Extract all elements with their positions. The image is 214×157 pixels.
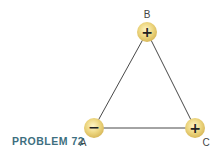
minus-sign-icon: − bbox=[88, 119, 100, 135]
plus-sign-icon: + bbox=[141, 24, 153, 40]
problem-caption: PROBLEM 72 bbox=[12, 135, 84, 147]
plus-sign-icon: + bbox=[189, 120, 201, 136]
charge-c: + bbox=[185, 118, 205, 138]
triangle-diagram: − + + bbox=[0, 0, 214, 157]
charge-a: − bbox=[84, 118, 104, 138]
label-c: C bbox=[202, 137, 209, 148]
edge-ab bbox=[94, 32, 147, 128]
charge-b: + bbox=[137, 22, 157, 42]
triangle-edges bbox=[94, 32, 195, 128]
edge-bc bbox=[147, 32, 195, 128]
label-b: B bbox=[144, 9, 151, 20]
